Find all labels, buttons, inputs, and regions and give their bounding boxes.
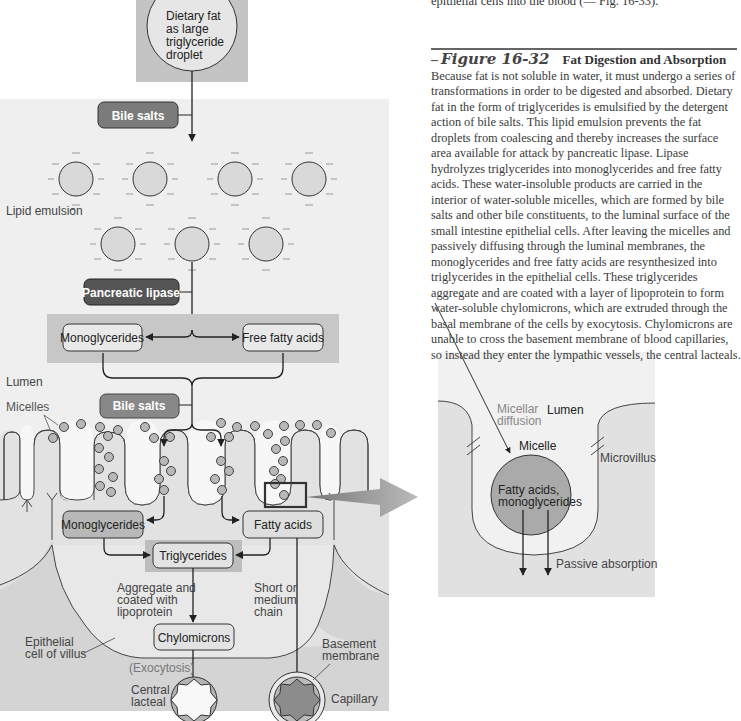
bile-salts-pill-1: Bile salts	[98, 102, 192, 128]
svg-text:Pancreatic lipase: Pancreatic lipase	[82, 286, 180, 300]
chylomicrons-box: Chylomicrons	[154, 624, 234, 650]
exocytosis-label: (Exocytosis)	[129, 661, 194, 675]
caption-dash: –	[431, 52, 438, 67]
capillary	[269, 672, 325, 721]
central-lacteal	[171, 677, 217, 721]
passive-absorption-label: Passive absorption	[556, 557, 657, 571]
droplet-panel: Dietary fat as large triglyceride drople…	[136, 0, 248, 82]
svg-text:Triglycerides: Triglycerides	[159, 549, 227, 563]
capillary-label: Capillary	[331, 692, 378, 706]
svg-text:Bile salts: Bile salts	[113, 399, 166, 413]
svg-text:Bile salts: Bile salts	[112, 109, 165, 123]
figure-caption: – Figure 16-32 Fat Digestion and Absorpt…	[431, 52, 741, 363]
inset-diagram: Lumen Micellar diffusion Micelle Microvi…	[438, 352, 657, 597]
inset-lumen-label: Lumen	[547, 403, 584, 417]
svg-text:Chylomicrons: Chylomicrons	[158, 631, 231, 645]
svg-text:Monoglycerides: Monoglycerides	[60, 331, 144, 345]
monoglycerides-cell-box: Monoglycerides	[61, 511, 145, 538]
micellar-diffusion-label: Micellar diffusion	[497, 402, 542, 428]
svg-text:Free fatty acids: Free fatty acids	[242, 331, 324, 345]
figure-title: Fat Digestion and Absorption	[563, 52, 727, 67]
svg-text:Monoglycerides: Monoglycerides	[61, 518, 145, 532]
pancreatic-lipase-pill: Pancreatic lipase	[82, 279, 192, 305]
lipid-emulsion-label: Lipid emulsion	[6, 204, 83, 218]
triglycerides-box: Triglycerides	[145, 540, 242, 572]
lumen-label: Lumen	[6, 375, 43, 389]
micelle-label: Micelle	[519, 439, 557, 453]
caption-heading: – Figure 16-32 Fat Digestion and Absorpt…	[431, 52, 741, 69]
top-text-snippet: epithelial cells into the blood (— Fig. …	[431, 0, 737, 9]
microvillus-label: Microvillus	[600, 451, 656, 465]
bile-salts-pill-2: Bile salts	[100, 394, 192, 418]
products-panel: Monoglycerides Free fatty acids	[47, 314, 339, 363]
fatty-acids-cell-box: Fatty acids	[243, 511, 323, 538]
figure-number: Figure 16-32	[441, 50, 549, 68]
caption-body: Because fat is not soluble in water, it …	[431, 69, 741, 364]
svg-text:Fatty acids: Fatty acids	[254, 518, 312, 532]
micelles-label: Micelles	[6, 400, 49, 414]
basement-membrane-label: Basement membrane	[322, 637, 380, 663]
